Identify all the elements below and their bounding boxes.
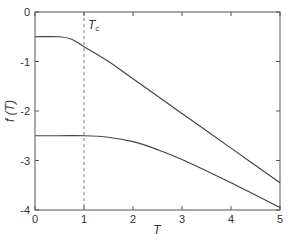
y-tick-label: -1: [20, 56, 30, 68]
y-tick-label: -2: [20, 105, 30, 117]
x-tick-label: 1: [81, 213, 87, 225]
x-axis-label: T: [153, 223, 162, 237]
y-axis: 0-1-2-3-4: [20, 6, 280, 216]
x-tick-label: 4: [228, 213, 234, 225]
x-tick-label: 3: [179, 213, 185, 225]
y-tick-label: -3: [20, 155, 30, 167]
series-line-lower: [35, 136, 280, 208]
y-tick-label: 0: [24, 6, 30, 18]
series-line-upper: [35, 37, 280, 183]
y-tick-label: -4: [20, 204, 30, 216]
series-group: [35, 37, 280, 208]
y-axis-label: f (T): [3, 100, 17, 122]
x-axis: 012345: [32, 12, 283, 225]
x-tick-label: 2: [130, 213, 136, 225]
x-tick-label: 5: [277, 213, 283, 225]
x-tick-label: 0: [32, 213, 38, 225]
plot-frame: [35, 12, 280, 210]
tc-annotation: Tc: [88, 18, 99, 33]
chart: 012345 0-1-2-3-4 Tc T f (T): [0, 0, 291, 240]
